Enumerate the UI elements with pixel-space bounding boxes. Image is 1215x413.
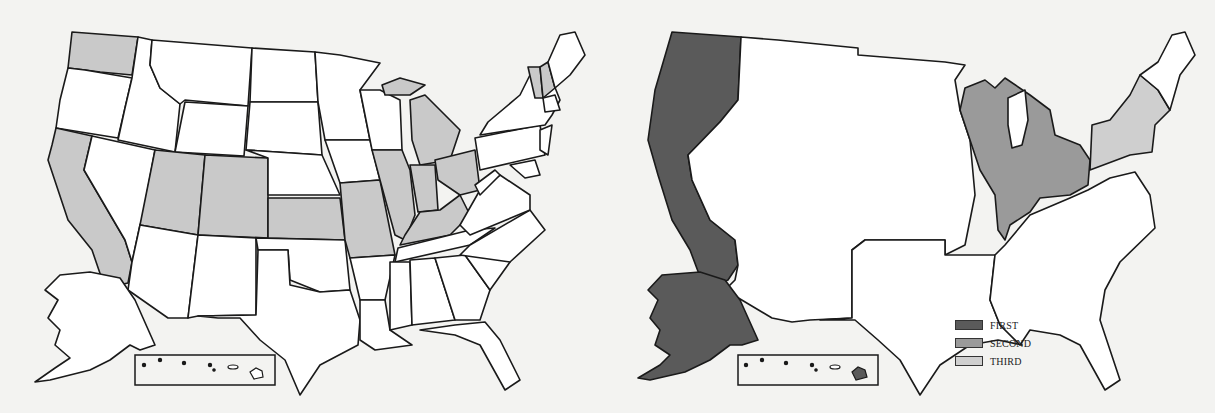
- legend-label-first: FIRST: [990, 320, 1018, 331]
- legend-label-second: SECOND: [990, 338, 1031, 349]
- state-arkansas: [350, 255, 395, 300]
- state-new-mexico: [188, 235, 256, 318]
- legend-swatch-second: [955, 338, 983, 348]
- right-map-svg: [610, 0, 1215, 413]
- legend-item-second: SECOND: [955, 334, 1031, 352]
- state-florida: [420, 322, 520, 390]
- state-kansas: [268, 198, 345, 240]
- state-mississippi: [390, 262, 412, 330]
- state-new-jersey: [540, 125, 552, 155]
- state-arizona: [128, 225, 198, 318]
- left-us-state-map: [0, 0, 605, 413]
- left-map-svg: [0, 0, 605, 413]
- state-north-dakota: [250, 48, 318, 102]
- state-wyoming: [175, 102, 248, 156]
- hawaii-islands: [142, 358, 263, 379]
- state-michigan: [410, 95, 460, 165]
- legend-item-first: FIRST: [955, 316, 1031, 334]
- hawaii-islands-first: [744, 358, 867, 380]
- legend-swatch-first: [955, 320, 983, 330]
- legend-item-third: THIRD: [955, 352, 1031, 370]
- state-maine: [548, 32, 585, 88]
- legend: FIRST SECOND THIRD: [955, 316, 1031, 370]
- legend-label-third: THIRD: [990, 356, 1022, 367]
- state-south-dakota: [246, 102, 322, 155]
- right-us-region-map: [610, 0, 1215, 413]
- state-colorado: [198, 155, 268, 238]
- legend-swatch-third: [955, 356, 983, 366]
- state-michigan-upper: [382, 78, 425, 95]
